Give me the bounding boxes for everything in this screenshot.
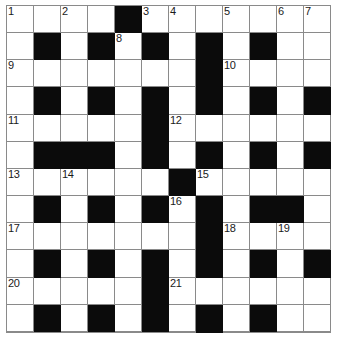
crossword-open-cell[interactable] xyxy=(277,305,304,332)
crossword-open-cell[interactable] xyxy=(250,332,277,333)
crossword-open-cell[interactable] xyxy=(223,142,250,169)
crossword-open-cell[interactable] xyxy=(250,60,277,87)
crossword-open-cell[interactable] xyxy=(277,169,304,196)
crossword-open-cell[interactable] xyxy=(61,60,88,87)
crossword-open-cell[interactable] xyxy=(277,87,304,114)
crossword-open-cell[interactable] xyxy=(61,332,88,333)
crossword-open-cell[interactable] xyxy=(61,87,88,114)
crossword-open-cell[interactable] xyxy=(250,278,277,305)
crossword-open-cell[interactable] xyxy=(250,115,277,142)
crossword-open-cell[interactable] xyxy=(223,196,250,223)
crossword-open-cell[interactable] xyxy=(61,278,88,305)
crossword-open-cell[interactable] xyxy=(115,278,142,305)
crossword-open-cell[interactable] xyxy=(277,33,304,60)
crossword-open-cell[interactable] xyxy=(61,223,88,250)
crossword-open-cell[interactable] xyxy=(34,115,61,142)
crossword-open-cell[interactable] xyxy=(115,87,142,114)
crossword-open-cell[interactable] xyxy=(169,33,196,60)
crossword-open-cell[interactable] xyxy=(304,33,331,60)
crossword-open-cell[interactable] xyxy=(196,278,223,305)
crossword-open-cell[interactable] xyxy=(223,305,250,332)
crossword-open-cell[interactable] xyxy=(304,332,331,333)
crossword-open-cell[interactable] xyxy=(142,332,169,333)
crossword-open-cell[interactable] xyxy=(115,250,142,277)
crossword-open-cell[interactable] xyxy=(250,169,277,196)
crossword-open-cell[interactable] xyxy=(115,115,142,142)
crossword-open-cell[interactable]: 16 xyxy=(169,196,196,223)
crossword-open-cell[interactable] xyxy=(88,332,115,333)
crossword-open-cell[interactable] xyxy=(196,115,223,142)
crossword-open-cell[interactable] xyxy=(7,305,34,332)
crossword-open-cell[interactable] xyxy=(223,33,250,60)
crossword-open-cell[interactable] xyxy=(34,332,61,333)
crossword-open-cell[interactable] xyxy=(115,305,142,332)
crossword-open-cell[interactable] xyxy=(277,278,304,305)
crossword-open-cell[interactable] xyxy=(34,6,61,33)
crossword-open-cell[interactable] xyxy=(34,223,61,250)
crossword-open-cell[interactable] xyxy=(304,60,331,87)
crossword-open-cell[interactable] xyxy=(169,87,196,114)
crossword-open-cell[interactable]: 17 xyxy=(7,223,34,250)
crossword-open-cell[interactable] xyxy=(115,332,142,333)
crossword-grid[interactable]: 1234567891011121314151617181920212223 xyxy=(6,5,331,333)
crossword-open-cell[interactable]: 14 xyxy=(61,169,88,196)
crossword-open-cell[interactable] xyxy=(169,60,196,87)
crossword-open-cell[interactable]: 9 xyxy=(7,60,34,87)
crossword-open-cell[interactable] xyxy=(88,223,115,250)
crossword-open-cell[interactable] xyxy=(34,278,61,305)
crossword-open-cell[interactable] xyxy=(7,142,34,169)
crossword-open-cell[interactable]: 11 xyxy=(7,115,34,142)
crossword-open-cell[interactable] xyxy=(304,169,331,196)
crossword-open-cell[interactable] xyxy=(277,332,304,333)
crossword-open-cell[interactable] xyxy=(304,115,331,142)
crossword-open-cell[interactable]: 13 xyxy=(7,169,34,196)
crossword-open-cell[interactable] xyxy=(304,278,331,305)
crossword-open-cell[interactable] xyxy=(61,305,88,332)
crossword-open-cell[interactable]: 22 xyxy=(7,332,34,333)
crossword-open-cell[interactable]: 7 xyxy=(304,6,331,33)
crossword-open-cell[interactable] xyxy=(115,60,142,87)
crossword-open-cell[interactable] xyxy=(196,6,223,33)
crossword-open-cell[interactable] xyxy=(142,169,169,196)
crossword-open-cell[interactable] xyxy=(304,305,331,332)
crossword-open-cell[interactable] xyxy=(304,196,331,223)
crossword-open-cell[interactable] xyxy=(277,115,304,142)
crossword-open-cell[interactable] xyxy=(250,223,277,250)
crossword-open-cell[interactable] xyxy=(7,87,34,114)
crossword-open-cell[interactable] xyxy=(169,142,196,169)
crossword-open-cell[interactable] xyxy=(142,60,169,87)
crossword-open-cell[interactable] xyxy=(223,169,250,196)
crossword-open-cell[interactable] xyxy=(169,223,196,250)
crossword-open-cell[interactable]: 3 xyxy=(142,6,169,33)
crossword-open-cell[interactable]: 19 xyxy=(277,223,304,250)
crossword-open-cell[interactable] xyxy=(223,87,250,114)
crossword-open-cell[interactable] xyxy=(7,196,34,223)
crossword-open-cell[interactable] xyxy=(88,169,115,196)
crossword-open-cell[interactable] xyxy=(277,250,304,277)
crossword-open-cell[interactable] xyxy=(115,223,142,250)
crossword-open-cell[interactable]: 10 xyxy=(223,60,250,87)
crossword-open-cell[interactable] xyxy=(223,278,250,305)
crossword-open-cell[interactable]: 8 xyxy=(115,33,142,60)
crossword-open-cell[interactable] xyxy=(61,196,88,223)
crossword-open-cell[interactable] xyxy=(88,60,115,87)
crossword-open-cell[interactable] xyxy=(169,305,196,332)
crossword-open-cell[interactable]: 12 xyxy=(169,115,196,142)
crossword-open-cell[interactable] xyxy=(250,6,277,33)
crossword-open-cell[interactable] xyxy=(115,142,142,169)
crossword-open-cell[interactable]: 23 xyxy=(223,332,250,333)
crossword-open-cell[interactable] xyxy=(115,196,142,223)
crossword-open-cell[interactable] xyxy=(223,115,250,142)
crossword-open-cell[interactable] xyxy=(169,332,196,333)
crossword-open-cell[interactable] xyxy=(7,250,34,277)
crossword-open-cell[interactable]: 4 xyxy=(169,6,196,33)
crossword-open-cell[interactable] xyxy=(34,60,61,87)
crossword-open-cell[interactable]: 2 xyxy=(61,6,88,33)
crossword-open-cell[interactable]: 6 xyxy=(277,6,304,33)
crossword-open-cell[interactable]: 18 xyxy=(223,223,250,250)
crossword-open-cell[interactable] xyxy=(169,250,196,277)
crossword-open-cell[interactable]: 15 xyxy=(196,169,223,196)
crossword-open-cell[interactable] xyxy=(34,169,61,196)
crossword-open-cell[interactable] xyxy=(7,33,34,60)
crossword-open-cell[interactable] xyxy=(223,250,250,277)
